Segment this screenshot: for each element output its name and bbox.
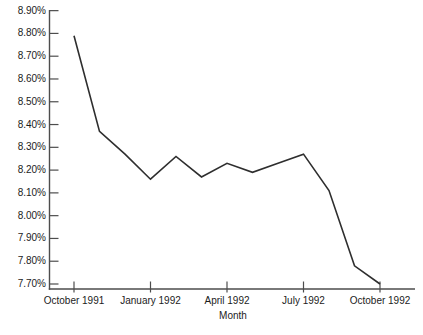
x-tick-label: January 1992 (120, 295, 181, 307)
x-tick-label: October 1991 (44, 295, 105, 307)
y-tick-label: 8.60% (0, 73, 46, 85)
y-tick-label: 8.50% (0, 96, 46, 108)
y-tick-label: 8.00% (0, 210, 46, 222)
x-axis-title: Month (219, 310, 247, 322)
y-tick-label: 8.20% (0, 164, 46, 176)
interest-rate-line (74, 36, 380, 284)
y-tick-label: 7.90% (0, 232, 46, 244)
x-tick-label: October 1992 (350, 295, 411, 307)
y-tick-label: 8.80% (0, 27, 46, 39)
y-tick-label: 7.70% (0, 278, 46, 290)
line-chart: 8.90%8.80%8.70%8.60%8.50%8.40%8.30%8.20%… (0, 0, 423, 335)
y-tick-label: 7.80% (0, 255, 46, 267)
y-tick-label: 8.70% (0, 50, 46, 62)
x-tick-label: July 1992 (282, 295, 325, 307)
y-tick-label: 8.90% (0, 5, 46, 17)
y-tick-label: 8.10% (0, 187, 46, 199)
y-tick-label: 8.30% (0, 141, 46, 153)
chart-canvas (0, 0, 423, 335)
x-tick-label: April 1992 (204, 295, 249, 307)
y-tick-label: 8.40% (0, 119, 46, 131)
